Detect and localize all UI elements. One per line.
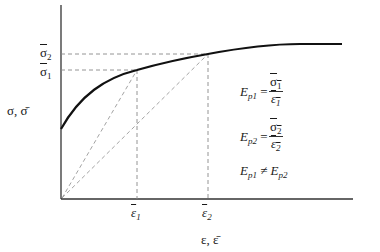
- equation-ep1: Ep1 =: [240, 84, 268, 101]
- diagram-canvas: [0, 0, 380, 252]
- fraction-sigma2-epsilon2: σ2 ε2: [269, 120, 283, 154]
- epsilon1-label: ε1: [131, 206, 141, 222]
- equation-ep2: Ep2 =: [240, 129, 268, 146]
- sigma2-label: σ2: [40, 46, 52, 62]
- equation-inequality: Ep1 ≠ Ep2: [240, 163, 288, 180]
- x-axis-label: ε, ε̄: [201, 233, 218, 246]
- epsilon2-label: ε2: [202, 206, 212, 222]
- fraction-sigma1-epsilon1: σ1 ε1: [269, 75, 283, 109]
- secant-line-2: [62, 54, 208, 198]
- secant-line-1: [62, 70, 137, 198]
- sigma1-label: σ1: [40, 65, 52, 81]
- stress-strain-curve: [61, 44, 342, 129]
- y-axis-label: σ, σ̄: [7, 104, 28, 117]
